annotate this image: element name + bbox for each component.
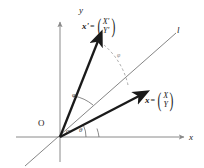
vector-x-prime-label: x' = ( X' Y' )	[82, 16, 117, 37]
angle-label-alpha: α	[66, 128, 70, 135]
angle-label-theta: θ	[79, 127, 82, 134]
paren-right: )	[111, 16, 115, 37]
vector-rotation-figure: y x O l x' = ( X' Y' ) x = ( X Y )	[0, 0, 204, 168]
vector-x-prime-name: x'	[82, 22, 89, 31]
angle-arc-alpha	[84, 126, 87, 138]
equals-sign: =	[150, 97, 157, 105]
origin-label: O	[38, 119, 45, 128]
paren-left: (	[97, 16, 101, 37]
vector-x-label: x = ( X Y )	[145, 90, 175, 111]
paren-right: )	[170, 90, 174, 111]
equals-sign: =	[89, 23, 96, 31]
angle-label-phi-outer: φ	[117, 52, 120, 58]
line-l-label: l	[177, 26, 180, 35]
angle-label-phi-inner: φ	[72, 92, 76, 99]
y-axis-label: y	[79, 6, 83, 15]
paren-left: (	[158, 90, 162, 111]
vector-x-component-bottom: Y	[163, 101, 167, 110]
vector-x-prime-component-bottom: Y'	[103, 27, 109, 36]
vector-x-prime	[60, 41, 98, 137]
x-axis-label: x	[189, 133, 193, 142]
vector-x	[60, 96, 139, 137]
angle-arc-theta	[97, 129, 99, 138]
